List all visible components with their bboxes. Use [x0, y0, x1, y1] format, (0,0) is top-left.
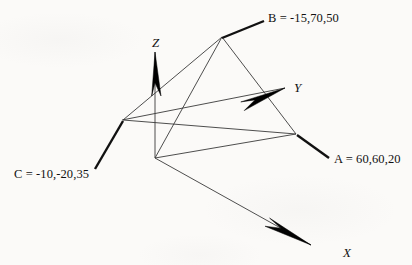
- axis-label-x: X: [343, 246, 351, 259]
- axis-lines: [122, 52, 311, 245]
- triangle-abc: [123, 37, 296, 134]
- axis-arrowheads: [152, 52, 311, 245]
- point-label-a: A = 60,60,20: [334, 153, 401, 166]
- projection-lines: [155, 37, 296, 158]
- point-label-b: B = -15,70,50: [268, 12, 339, 25]
- figure-canvas: X Y Z A = 60,60,20 B = -15,70,50 C = -10…: [0, 0, 412, 265]
- axis-label-y: Y: [294, 81, 301, 94]
- point-label-c: C = -10,-20,35: [14, 168, 89, 181]
- coordinate-diagram: [0, 0, 412, 265]
- label-leader-lines: [95, 21, 329, 169]
- axis-label-z: Z: [152, 36, 159, 49]
